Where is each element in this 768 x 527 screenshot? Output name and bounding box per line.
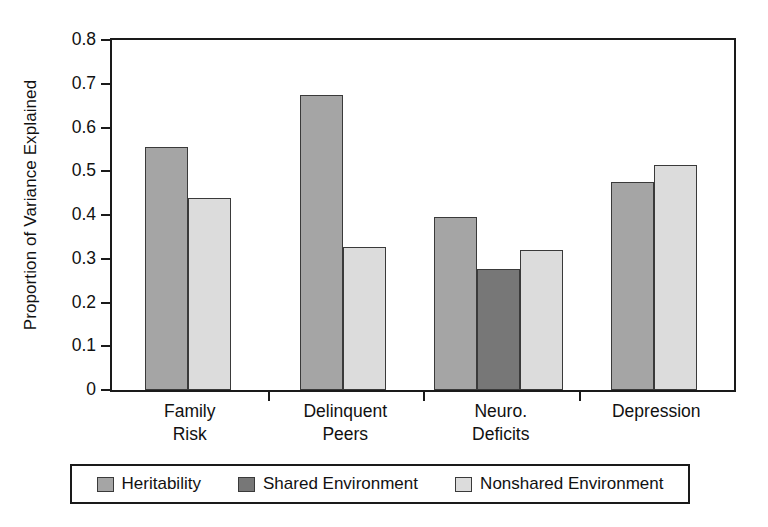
bars-layer bbox=[112, 40, 734, 390]
category-label-line2: Deficits bbox=[411, 423, 591, 446]
bar bbox=[611, 182, 654, 390]
bar bbox=[188, 198, 231, 390]
y-axis-tick-label: 0.8 bbox=[6, 30, 96, 48]
y-axis-tick-label: 0.6 bbox=[6, 118, 96, 136]
x-axis-category-label: DelinquentPeers bbox=[255, 400, 435, 446]
bar bbox=[343, 247, 386, 390]
y-axis-tick bbox=[101, 258, 110, 260]
y-axis-tick bbox=[101, 127, 110, 129]
category-label-line1: Family bbox=[164, 401, 216, 421]
plot-area bbox=[110, 38, 736, 392]
category-label-line1: Delinquent bbox=[303, 401, 387, 421]
y-axis-tick-label: 0.3 bbox=[6, 249, 96, 267]
legend-item[interactable]: Heritability bbox=[97, 474, 201, 494]
y-axis-tick-label: 0 bbox=[6, 380, 96, 398]
legend-label: Nonshared Environment bbox=[480, 474, 663, 494]
y-axis-tick bbox=[101, 345, 110, 347]
y-axis-tick-label: 0.5 bbox=[6, 161, 96, 179]
category-label-line1: Depression bbox=[612, 401, 701, 421]
y-axis-tick-label: 0.1 bbox=[6, 336, 96, 354]
legend-swatch-icon bbox=[238, 477, 255, 492]
y-axis-tick bbox=[101, 170, 110, 172]
bar bbox=[434, 217, 477, 390]
category-label-line2: Risk bbox=[100, 423, 280, 446]
y-axis-tick-label: 0.7 bbox=[6, 74, 96, 92]
legend-swatch-icon bbox=[97, 477, 114, 492]
bar bbox=[300, 95, 343, 390]
category-label-line2: Peers bbox=[255, 423, 435, 446]
y-axis-tick bbox=[101, 214, 110, 216]
bar bbox=[654, 165, 697, 390]
legend-swatch-icon bbox=[455, 477, 472, 492]
legend-label: Shared Environment bbox=[263, 474, 418, 494]
bar bbox=[145, 147, 188, 390]
y-axis-tick-label: 0.4 bbox=[6, 205, 96, 223]
y-axis-tick-label: 0.2 bbox=[6, 293, 96, 311]
x-axis-category-label: FamilyRisk bbox=[100, 400, 280, 446]
legend-item[interactable]: Shared Environment bbox=[238, 474, 418, 494]
legend-item[interactable]: Nonshared Environment bbox=[455, 474, 663, 494]
chart-legend: HeritabilityShared EnvironmentNonshared … bbox=[70, 464, 690, 504]
y-axis-tick bbox=[101, 302, 110, 304]
x-axis-category-label: Depression bbox=[566, 400, 746, 423]
figure-container: Proportion of Variance Explained 0.80.70… bbox=[0, 0, 768, 527]
y-axis-tick bbox=[101, 83, 110, 85]
x-axis-category-label: Neuro.Deficits bbox=[411, 400, 591, 446]
y-axis-tick bbox=[101, 39, 110, 41]
legend-label: Heritability bbox=[122, 474, 201, 494]
category-label-line1: Neuro. bbox=[474, 401, 527, 421]
y-axis-tick bbox=[101, 389, 110, 391]
bar bbox=[477, 269, 520, 390]
bar bbox=[520, 250, 563, 390]
